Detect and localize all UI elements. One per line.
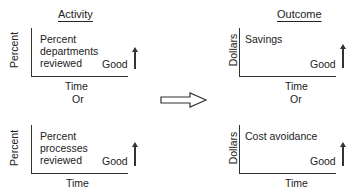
x-axis-label: Time bbox=[66, 177, 89, 189]
y-axis-label: Dollars bbox=[227, 132, 239, 165]
y-axis-label: Percent bbox=[8, 32, 20, 68]
good-label: Good bbox=[102, 58, 128, 70]
metric-label: Cost avoidance bbox=[245, 130, 317, 142]
good-label: Good bbox=[310, 155, 336, 167]
x-axis-label: Time bbox=[285, 80, 308, 92]
up-arrow-icon bbox=[342, 146, 344, 166]
x-axis-label: Time bbox=[65, 80, 88, 92]
good-label: Good bbox=[102, 155, 128, 167]
y-axis-label: Dollars bbox=[227, 34, 239, 67]
up-arrow-icon bbox=[342, 48, 344, 68]
activity-title: Activity bbox=[58, 8, 93, 20]
panel-text: Savings bbox=[245, 33, 282, 45]
or-separator-left: Or bbox=[72, 93, 84, 105]
outcome-title: Outcome bbox=[277, 8, 322, 20]
panel-text: Percent departments reviewed bbox=[40, 33, 110, 69]
hollow-right-arrow-icon bbox=[160, 92, 208, 112]
panel-text: Cost avoidance bbox=[245, 130, 317, 142]
metric-label: Percent departments reviewed bbox=[40, 33, 98, 69]
or-separator-right: Or bbox=[290, 93, 302, 105]
good-label: Good bbox=[310, 58, 336, 70]
metric-label: Savings bbox=[245, 33, 282, 45]
metric-label: Percent processes reviewed bbox=[40, 130, 88, 166]
y-axis-label: Percent bbox=[8, 130, 20, 166]
up-arrow-icon bbox=[134, 51, 136, 69]
up-arrow-icon bbox=[134, 146, 136, 166]
panel-text: Percent processes reviewed bbox=[40, 130, 100, 166]
x-axis-label: Time bbox=[285, 177, 308, 189]
